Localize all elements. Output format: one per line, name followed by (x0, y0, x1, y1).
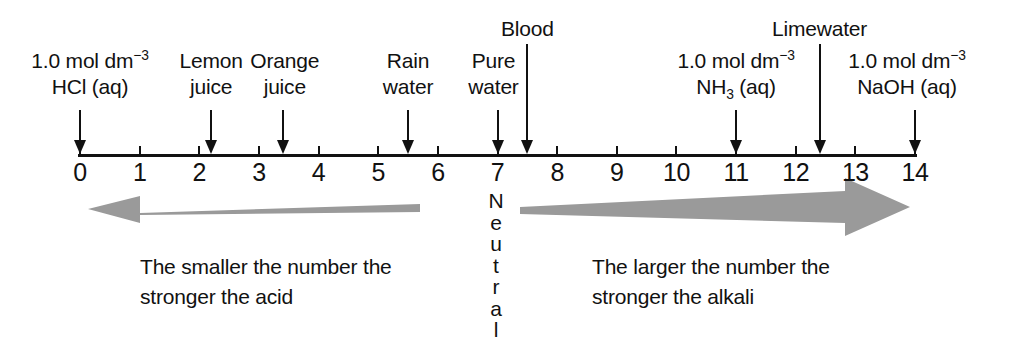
substance-label-line-2: NaOH (aq) (757, 74, 1013, 100)
axis-tick-2 (198, 146, 200, 155)
neutral-letter-2: u (484, 233, 508, 255)
axis-tick-label-2: 2 (179, 160, 219, 185)
pointer-arrow-pure-water (491, 110, 505, 154)
neutral-letter-6: l (484, 319, 508, 341)
axis-tick-label-8: 8 (537, 160, 577, 185)
axis-tick-13 (854, 146, 856, 155)
acid-direction-arrow (80, 178, 420, 240)
axis-tick-label-6: 6 (418, 160, 458, 185)
ph-scale-diagram: 01234567891011121314 1.0 mol dm−3HCl (aq… (0, 0, 1013, 361)
axis-tick-label-3: 3 (239, 160, 279, 185)
acid-caption-line-2: stronger the acid (140, 282, 392, 312)
axis-tick-label-9: 9 (597, 160, 637, 185)
axis-tick-8 (556, 146, 558, 155)
acid-caption-line-1: The smaller the number the (140, 252, 392, 282)
axis-tick-label-14: 14 (895, 160, 935, 185)
pointer-stem (282, 110, 284, 141)
pointer-head (492, 140, 504, 154)
axis-tick-1 (139, 146, 141, 155)
axis-tick-label-4: 4 (299, 160, 339, 185)
substance-label-naoh: 1.0 mol dm−3NaOH (aq) (757, 48, 1013, 100)
axis-tick-label-13: 13 (835, 160, 875, 185)
substance-label-line-1: Blood (501, 17, 554, 40)
pointer-stem (210, 110, 212, 141)
axis-tick-5 (377, 146, 379, 155)
alkali-caption-line-2: stronger the alkali (592, 282, 830, 312)
pointer-stem (735, 110, 737, 141)
neutral-letter-1: e (484, 212, 508, 234)
axis-tick-label-5: 5 (358, 160, 398, 185)
pointer-arrow-orange-juice (276, 110, 290, 154)
alkali-direction-arrow (520, 178, 915, 240)
neutral-label: Neutral (484, 190, 508, 341)
axis-tick-label-11: 11 (716, 160, 756, 185)
axis-tick-10 (675, 146, 677, 155)
pointer-stem (79, 110, 81, 141)
axis-tick-label-0: 0 (60, 160, 100, 185)
acid-caption: The smaller the number the stronger the … (140, 252, 392, 312)
axis-tick-6 (437, 146, 439, 155)
axis-tick-label-10: 10 (656, 160, 696, 185)
neutral-letter-4: r (484, 276, 508, 298)
alkali-caption-line-1: The larger the number the (592, 252, 830, 282)
pointer-stem (407, 110, 409, 141)
neutral-letter-5: a (484, 298, 508, 320)
axis-tick-3 (258, 146, 260, 155)
axis-tick-4 (318, 146, 320, 155)
pointer-head (521, 140, 533, 154)
substance-label-line-1: Limewater (772, 17, 867, 40)
pointer-arrow-lemon-juice (204, 110, 218, 154)
neutral-letter-0: N (484, 190, 508, 212)
axis-tick-label-1: 1 (120, 160, 160, 185)
neutral-letter-3: t (484, 255, 508, 277)
axis-tick-9 (616, 146, 618, 155)
alkali-caption: The larger the number the stronger the a… (592, 252, 830, 312)
pointer-head (205, 140, 217, 154)
pointer-stem (914, 110, 916, 141)
axis-tick-12 (795, 146, 797, 155)
pointer-head (730, 140, 742, 154)
pointer-arrow-hcl (73, 110, 87, 154)
pointer-stem (497, 110, 499, 141)
substance-label-limewater: Limewater (670, 16, 970, 42)
pointer-head (909, 140, 921, 154)
axis-tick-label-7: 7 (478, 160, 518, 185)
pointer-head (402, 140, 414, 154)
substance-label-line-1: 1.0 mol dm−3 (848, 49, 965, 72)
pointer-head (814, 140, 826, 154)
axis-tick-label-12: 12 (776, 160, 816, 185)
pointer-arrow-ammonia (729, 110, 743, 154)
pointer-head (74, 140, 86, 154)
pointer-head (277, 140, 289, 154)
pointer-arrow-rain-water (401, 110, 415, 154)
substance-label-line-1: Pure (472, 49, 516, 72)
substance-label-blood: Blood (377, 16, 677, 42)
pointer-arrow-naoh (908, 110, 922, 154)
